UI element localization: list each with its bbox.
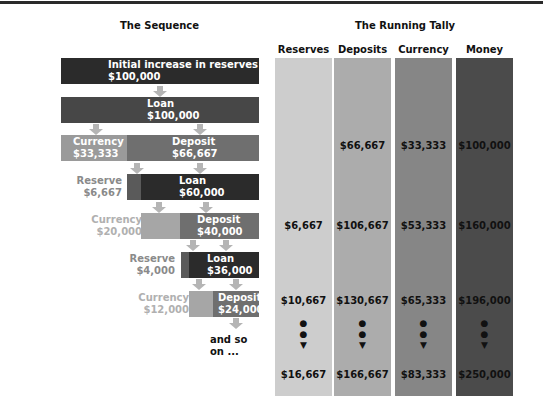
reserve-label-3: Reserve $4,000 (100, 253, 175, 277)
loan1-value: $100,000 (147, 110, 259, 122)
continuation-dots-icon: ●●▼ (456, 318, 513, 351)
reserve-box-2 (127, 174, 141, 200)
loan-box-1: Loan $100,000 (61, 97, 259, 123)
currency2-label: Currency (80, 214, 142, 226)
loan2-label: Loan (179, 175, 259, 187)
deposit-box-2: Deposit $40,000 (180, 213, 259, 239)
reserves-value: $16,667 (275, 369, 332, 380)
currency-value: $83,333 (395, 369, 452, 380)
deposit-box-3: Deposit $24,000 (213, 291, 259, 317)
column-header-money: Money (456, 44, 513, 55)
money-value: $196,000 (456, 295, 513, 306)
money-value: $100,000 (456, 140, 513, 151)
column-money: $100,000 $160,000 $196,000 ●●▼ $250,000 (456, 58, 513, 396)
sequence-title: The Sequence (120, 20, 199, 31)
column-reserves: $6,667 $10,667 ●●▼ $16,667 (275, 58, 332, 396)
deposits-value: $106,667 (334, 220, 391, 231)
deposit2-value: $40,000 (197, 226, 259, 238)
money-value: $250,000 (456, 369, 513, 380)
loan3-label: Loan (207, 253, 259, 265)
loan-box-2: Loan $60,000 (141, 174, 259, 200)
currency-box-2 (141, 213, 180, 239)
column-currency: $33,333 $53,333 $65,333 ●●▼ $83,333 (395, 58, 452, 396)
currency-box-3 (189, 291, 213, 317)
currency3-value: $12,000 (135, 304, 189, 316)
deposit1-value: $66,667 (172, 148, 259, 160)
top-border (0, 1, 543, 4)
deposit2-label: Deposit (197, 214, 259, 226)
currency-value: $33,333 (395, 140, 452, 151)
column-deposits: $66,667 $106,667 $130,667 ●●▼ $166,667 (334, 58, 391, 396)
deposits-value: $66,667 (334, 140, 391, 151)
reserve-label-2: Reserve $6,667 (70, 175, 122, 199)
deposit3-value: $24,000 (218, 304, 259, 316)
reserves-value: $10,667 (275, 295, 332, 306)
deposit3-label: Deposit (218, 292, 259, 304)
initial-value: $100,000 (108, 71, 259, 83)
currency-label-3: Currency $12,000 (135, 292, 189, 316)
currency1-label: Currency (73, 136, 127, 148)
deposits-value: $166,667 (334, 369, 391, 380)
reserve2-value: $6,667 (70, 187, 122, 199)
deposits-value: $130,667 (334, 295, 391, 306)
money-value: $160,000 (456, 220, 513, 231)
currency-label-2: Currency $20,000 (80, 214, 142, 238)
column-header-reserves: Reserves (275, 44, 332, 55)
currency3-label: Currency (135, 292, 189, 304)
loan3-value: $36,000 (207, 265, 259, 277)
loan2-value: $60,000 (179, 187, 259, 199)
tally-title: The Running Tally (355, 20, 455, 31)
andso-line1: and so (210, 334, 254, 346)
continuation-dots-icon: ●●▼ (334, 318, 391, 351)
reserve3-label: Reserve (100, 253, 175, 265)
loan1-label: Loan (147, 98, 259, 110)
column-header-deposits: Deposits (334, 44, 391, 55)
initial-reserves-box: Initial increase in reserves $100,000 (61, 58, 259, 84)
andso-line2: on ... (210, 346, 254, 358)
deposit-box-1: Deposit $66,667 (127, 135, 259, 161)
currency1-value: $33,333 (73, 148, 127, 160)
reserve3-value: $4,000 (100, 265, 175, 277)
loan-box-3: Loan $36,000 (189, 252, 259, 278)
currency-value: $65,333 (395, 295, 452, 306)
reserve-box-3 (181, 252, 189, 278)
reserve2-label: Reserve (70, 175, 122, 187)
column-header-currency: Currency (395, 44, 452, 55)
and-so-on: and so on ... (210, 334, 254, 358)
reserves-value: $6,667 (275, 220, 332, 231)
currency2-value: $20,000 (80, 226, 142, 238)
initial-label: Initial increase in reserves (108, 59, 259, 71)
deposit1-label: Deposit (172, 136, 259, 148)
currency-value: $53,333 (395, 220, 452, 231)
continuation-dots-icon: ●●▼ (275, 318, 332, 351)
currency-box-1: Currency $33,333 (61, 135, 127, 161)
continuation-dots-icon: ●●▼ (395, 318, 452, 351)
